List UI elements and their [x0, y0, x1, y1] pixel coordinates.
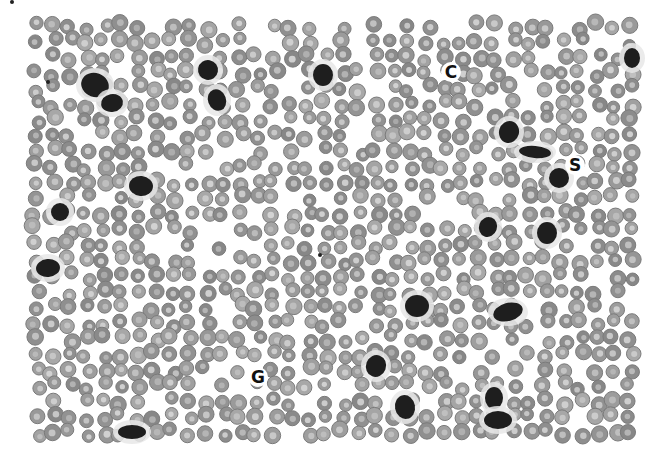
red-blood-cell — [280, 335, 295, 350]
red-blood-cell — [318, 126, 332, 140]
red-blood-cell — [591, 255, 604, 268]
red-blood-cell — [185, 178, 198, 191]
red-blood-cell — [284, 144, 299, 159]
red-blood-cell — [470, 250, 486, 266]
red-blood-cell — [166, 267, 180, 281]
white-blood-cell — [484, 411, 512, 429]
red-blood-cell — [219, 282, 232, 295]
red-blood-cell — [570, 65, 583, 78]
red-blood-cell — [405, 334, 418, 347]
red-blood-cell — [559, 239, 573, 253]
red-blood-cell — [333, 129, 345, 141]
red-blood-cell — [229, 331, 245, 347]
red-blood-cell — [133, 252, 145, 264]
red-blood-cell — [98, 160, 115, 177]
red-blood-cell — [368, 220, 382, 234]
red-blood-cell — [335, 100, 349, 114]
red-blood-cell — [304, 300, 317, 313]
red-blood-cell — [541, 65, 556, 80]
red-blood-cell — [30, 16, 43, 29]
red-blood-cell — [77, 350, 90, 363]
red-blood-cell — [286, 283, 300, 297]
red-blood-cell — [588, 299, 602, 313]
red-blood-cell — [131, 395, 145, 409]
red-blood-cell — [574, 193, 588, 207]
red-blood-cell — [490, 172, 503, 185]
red-blood-cell — [367, 34, 379, 46]
red-blood-cell — [165, 50, 178, 63]
red-blood-cell — [303, 111, 315, 123]
red-blood-cell — [621, 410, 634, 423]
red-blood-cell — [620, 425, 635, 440]
red-blood-cell — [389, 115, 402, 128]
red-blood-cell — [254, 115, 267, 128]
red-blood-cell — [607, 161, 620, 174]
red-blood-cell — [26, 155, 42, 171]
red-blood-cell — [543, 337, 555, 349]
red-blood-cell — [605, 21, 619, 35]
red-blood-cell — [556, 346, 569, 359]
red-blood-cell — [132, 312, 147, 327]
red-blood-cell — [455, 334, 468, 347]
red-blood-cell — [560, 143, 573, 156]
red-blood-cell — [268, 19, 281, 32]
red-blood-cell — [320, 161, 334, 175]
red-blood-cell — [557, 33, 570, 46]
red-blood-cell — [32, 284, 46, 298]
red-blood-cell — [47, 174, 63, 190]
red-blood-cell — [30, 409, 45, 424]
red-blood-cell — [44, 16, 60, 32]
red-blood-cell — [541, 314, 555, 328]
red-blood-cell — [247, 282, 263, 298]
red-blood-cell — [263, 189, 277, 203]
red-blood-cell — [466, 34, 481, 49]
red-blood-cell — [453, 318, 468, 333]
red-blood-cell — [486, 15, 502, 31]
red-blood-cell — [349, 162, 364, 177]
red-blood-cell — [371, 176, 384, 189]
white-blood-cell — [118, 425, 146, 439]
red-blood-cell — [167, 179, 180, 192]
red-blood-cell — [439, 239, 452, 252]
speck — [318, 253, 322, 257]
red-blood-cell — [625, 222, 638, 235]
red-blood-cell — [298, 46, 314, 62]
red-blood-cell — [437, 425, 451, 439]
red-blood-cell — [215, 378, 229, 392]
red-blood-cell — [61, 53, 76, 68]
red-blood-cell — [110, 49, 124, 63]
red-blood-cell — [453, 350, 466, 363]
red-blood-cell — [162, 93, 178, 109]
red-blood-cell — [49, 297, 62, 310]
red-blood-cell — [453, 252, 466, 265]
red-blood-cell — [177, 62, 193, 78]
red-blood-cell — [332, 421, 348, 437]
red-blood-cell — [316, 427, 330, 441]
red-blood-cell — [251, 131, 265, 145]
red-blood-cell — [110, 407, 123, 420]
red-blood-cell — [168, 220, 182, 234]
red-blood-cell — [440, 221, 455, 236]
red-blood-cell — [81, 144, 96, 159]
red-blood-cell — [467, 99, 483, 115]
red-blood-cell — [603, 221, 619, 237]
red-blood-cell — [230, 409, 245, 424]
red-blood-cell — [356, 331, 369, 344]
red-blood-cell — [540, 284, 554, 298]
red-blood-cell — [94, 253, 109, 268]
red-blood-cell — [626, 189, 639, 202]
red-blood-cell — [115, 329, 130, 344]
red-blood-cell — [236, 126, 251, 141]
red-blood-cell — [555, 285, 568, 298]
red-blood-cell — [504, 250, 519, 265]
red-blood-cell — [114, 143, 130, 159]
red-blood-cell — [418, 252, 431, 265]
red-blood-cell — [144, 33, 160, 49]
red-blood-cell — [404, 220, 417, 233]
red-blood-cell — [95, 239, 108, 252]
red-blood-cell — [434, 252, 449, 267]
red-blood-cell — [556, 80, 569, 93]
red-blood-cell — [94, 327, 110, 343]
red-blood-cell — [179, 300, 191, 312]
red-blood-cell — [590, 330, 605, 345]
